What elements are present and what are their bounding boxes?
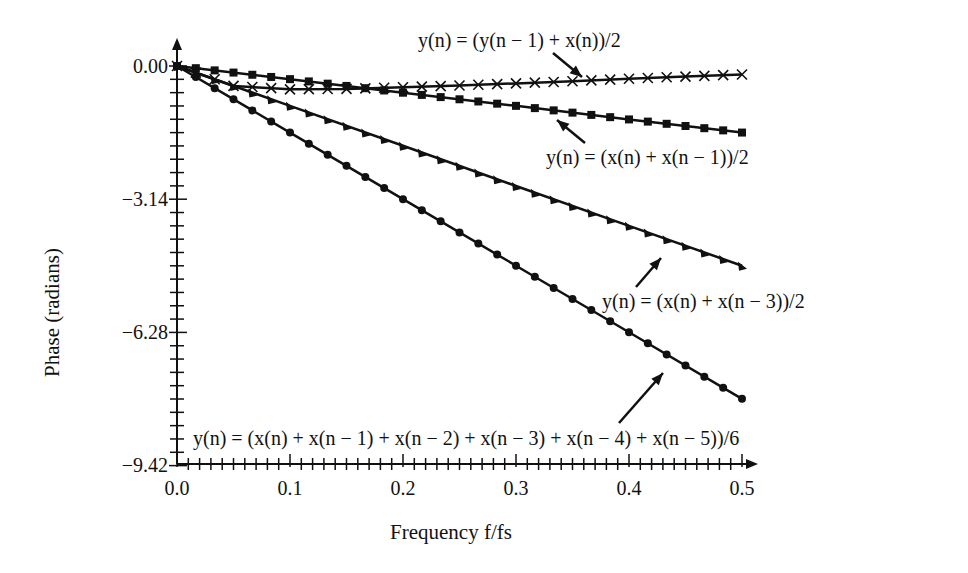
x-axis-arrow-icon	[746, 459, 758, 469]
square-marker-icon	[682, 122, 690, 130]
square-marker-icon	[663, 120, 671, 128]
square-marker-icon	[343, 82, 351, 90]
circle-marker-icon	[606, 317, 614, 325]
circle-marker-icon	[474, 240, 482, 248]
circle-marker-icon	[512, 262, 520, 270]
circle-marker-icon	[587, 306, 595, 314]
circle-marker-icon	[700, 373, 708, 381]
square-marker-icon	[230, 69, 238, 77]
circle-marker-icon	[456, 228, 464, 236]
circle-marker-icon	[173, 62, 181, 70]
square-marker-icon	[738, 129, 746, 137]
x-tick-label: 0.3	[491, 478, 541, 498]
circle-marker-icon	[192, 73, 200, 81]
circle-marker-icon	[399, 195, 407, 203]
square-marker-icon	[550, 106, 558, 114]
circle-marker-icon	[324, 151, 332, 159]
triangle-marker-icon	[738, 262, 747, 271]
x-axis-title: Frequency f/fs	[390, 522, 512, 543]
x-tick-label: 0.2	[378, 478, 428, 498]
circle-marker-icon	[738, 395, 746, 403]
square-marker-icon	[569, 109, 577, 117]
circle-marker-icon	[625, 328, 633, 336]
y-axis-title: Phase (radians)	[40, 243, 65, 383]
square-marker-icon	[719, 126, 727, 134]
square-marker-icon	[606, 113, 614, 121]
circle-marker-icon	[267, 117, 275, 125]
circle-marker-icon	[361, 173, 369, 181]
square-marker-icon	[625, 115, 633, 123]
y-tick-label: −3.14	[88, 189, 168, 209]
circle-marker-icon	[248, 106, 256, 114]
circle-marker-icon	[211, 84, 219, 92]
circle-marker-icon	[380, 184, 388, 192]
annotation-series-4: y(n) = (x(n) + x(n − 1) + x(n − 2) + x(n…	[193, 428, 739, 448]
square-marker-icon	[700, 124, 708, 132]
circle-marker-icon	[437, 217, 445, 225]
circle-marker-icon	[230, 95, 238, 103]
square-marker-icon	[248, 71, 256, 79]
square-marker-icon	[361, 84, 369, 92]
square-marker-icon	[324, 80, 332, 88]
circle-marker-icon	[286, 129, 294, 137]
square-marker-icon	[644, 118, 652, 126]
square-marker-icon	[267, 73, 275, 81]
circle-marker-icon	[343, 162, 351, 170]
circle-marker-icon	[719, 384, 727, 392]
square-marker-icon	[399, 89, 407, 97]
x-tick-label: 0.4	[604, 478, 654, 498]
square-marker-icon	[531, 104, 539, 112]
square-marker-icon	[493, 100, 501, 108]
square-marker-icon	[286, 75, 294, 83]
circle-marker-icon	[418, 206, 426, 214]
circle-marker-icon	[663, 350, 671, 358]
annotation-series-1: y(n) = (y(n − 1) + x(n))/2	[418, 30, 621, 50]
circle-marker-icon	[550, 284, 558, 292]
square-marker-icon	[437, 93, 445, 101]
circle-marker-icon	[493, 251, 501, 259]
chart-plot-area	[0, 0, 968, 573]
annotation-series-2: y(n) = (x(n) + x(n − 1))/2	[546, 147, 749, 167]
square-marker-icon	[380, 86, 388, 94]
square-marker-icon	[305, 77, 313, 85]
circle-marker-icon	[569, 295, 577, 303]
circle-marker-icon	[644, 339, 652, 347]
y-axis-arrow-icon	[172, 38, 182, 50]
square-marker-icon	[456, 95, 464, 103]
y-tick-label: −6.28	[88, 322, 168, 342]
circle-marker-icon	[305, 140, 313, 148]
square-marker-icon	[418, 91, 426, 99]
circle-marker-icon	[531, 273, 539, 281]
y-tick-label: −9.42	[88, 455, 168, 475]
x-tick-label: 0.0	[152, 478, 202, 498]
square-marker-icon	[211, 66, 219, 74]
square-marker-icon	[512, 102, 520, 110]
y-tick-label: 0.00	[88, 56, 168, 76]
x-tick-label: 0.5	[717, 478, 767, 498]
square-marker-icon	[474, 97, 482, 105]
circle-marker-icon	[682, 362, 690, 370]
square-marker-icon	[587, 111, 595, 119]
annotation-series-3: y(n) = (x(n) + x(n − 3))/2	[602, 291, 805, 311]
x-tick-label: 0.1	[265, 478, 315, 498]
